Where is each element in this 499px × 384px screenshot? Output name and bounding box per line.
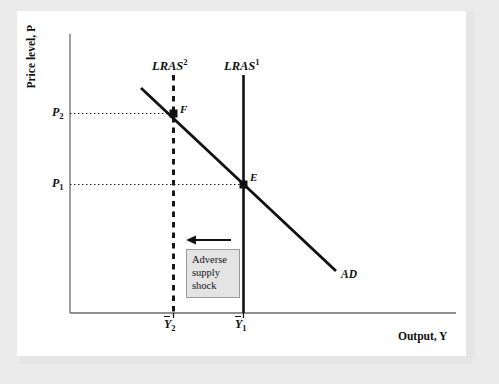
shock-line-3: shock xyxy=(192,280,239,293)
shock-line-2: supply xyxy=(192,267,239,280)
point-f-marker xyxy=(170,110,178,118)
x-axis-title: Output, Y xyxy=(398,331,447,343)
adverse-supply-shock-box: Adverse supply shock xyxy=(186,249,240,298)
shock-line-1: Adverse xyxy=(192,254,239,267)
y2-tick-label: Y2 xyxy=(164,318,176,333)
figure-container: Price level, P Output, Y LRAS2 LRAS1 F E… xyxy=(0,0,499,384)
point-e-marker xyxy=(240,181,248,189)
lras1-label: LRAS1 xyxy=(224,58,260,73)
ad-label: AD xyxy=(341,269,357,281)
y1-tick-label: Y1 xyxy=(235,318,247,333)
point-e-label: E xyxy=(250,172,257,183)
adverse-shock-arrow xyxy=(186,235,231,244)
p2-tick-label: P2 xyxy=(52,106,64,121)
y-axis-title: Price level, P xyxy=(26,25,38,92)
p1-tick-label: P1 xyxy=(52,177,64,192)
lras2-label: LRAS2 xyxy=(152,58,188,73)
point-f-label: F xyxy=(180,104,187,115)
